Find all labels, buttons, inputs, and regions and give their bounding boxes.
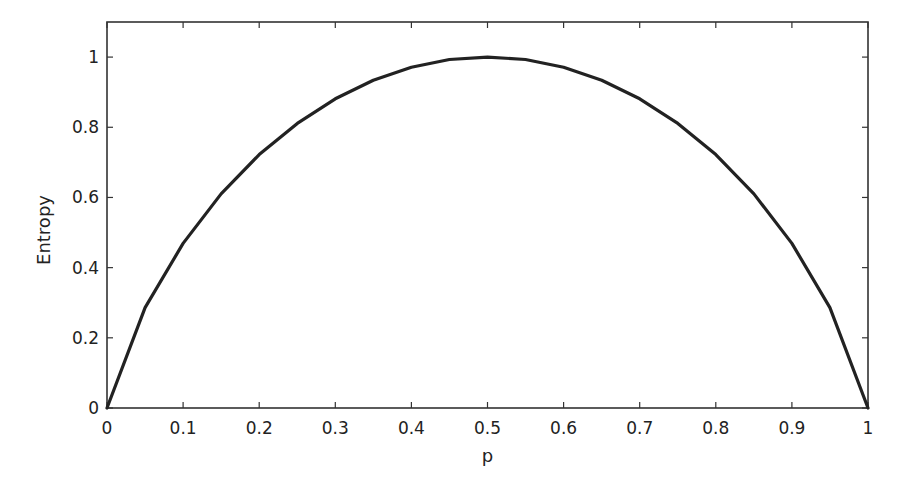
x-tick-label: 0.2: [246, 418, 273, 438]
x-tick-label: 0.1: [170, 418, 197, 438]
x-tick-label: 0: [102, 418, 113, 438]
entropy-chart: 00.10.20.30.40.50.60.70.80.91 00.20.40.6…: [0, 0, 905, 486]
y-tick-label: 0: [88, 398, 99, 418]
y-axis-title: Entropy: [33, 195, 54, 265]
y-tick-label: 0.4: [72, 258, 99, 278]
y-tick-label: 0.2: [72, 328, 99, 348]
plot-border: [107, 22, 868, 408]
x-axis-title: p: [482, 445, 493, 466]
x-tick-label: 0.9: [778, 418, 805, 438]
x-tick-label: 1: [863, 418, 874, 438]
x-tick-label: 0.4: [398, 418, 425, 438]
x-tick-label: 0.3: [322, 418, 349, 438]
x-axis-ticks: 00.10.20.30.40.50.60.70.80.91: [102, 22, 874, 438]
x-tick-label: 0.6: [550, 418, 577, 438]
y-tick-label: 1: [88, 47, 99, 67]
y-tick-label: 0.6: [72, 187, 99, 207]
x-tick-label: 0.5: [474, 418, 501, 438]
x-tick-label: 0.8: [702, 418, 729, 438]
y-tick-label: 0.8: [72, 117, 99, 137]
x-tick-label: 0.7: [626, 418, 653, 438]
plot-frame: [107, 22, 868, 408]
series-layer: [107, 57, 868, 408]
entropy-curve: [107, 57, 868, 408]
